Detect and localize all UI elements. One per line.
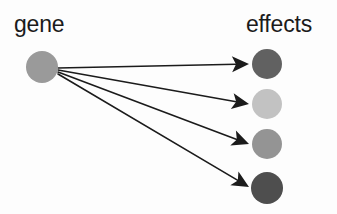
effect-node-4 (251, 172, 283, 204)
effects-label: effects (246, 11, 312, 37)
effect-node-1 (252, 49, 282, 79)
effect-node-3 (252, 129, 282, 159)
gene-node (26, 51, 58, 83)
gene-label: gene (14, 11, 64, 37)
effect-node-2 (252, 89, 282, 119)
figure-root: gene effects (0, 0, 337, 214)
diagram-canvas: gene effects (0, 0, 337, 214)
